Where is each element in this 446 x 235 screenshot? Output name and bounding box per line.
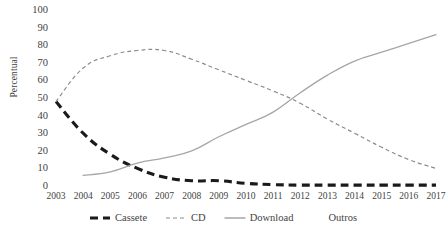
y-tick-label: 60 [22,75,48,85]
x-axis-tick-labels: 2003200420052006200720082009201020112012… [56,190,436,204]
legend-label: CD [191,212,206,224]
legend-item-cassete[interactable]: Cassete [89,212,147,224]
legend-label: Cassete [115,212,147,224]
legend-label: Download [250,212,294,224]
y-tick-label: 70 [22,58,48,68]
y-tick-label: 100 [22,5,48,15]
legend-label: Outros [328,212,357,224]
y-tick-label: 30 [22,128,48,138]
y-tick-label: 40 [22,111,48,121]
y-tick-label: 90 [22,23,48,33]
series-line-cassete [56,102,436,186]
legend-item-download[interactable]: Download [224,212,294,224]
y-axis-tick-labels: 0102030405060708090100 [22,10,48,186]
y-tick-label: 50 [22,93,48,103]
legend-swatch-cd-icon [165,213,187,223]
legend-item-cd[interactable]: CD [165,212,206,224]
line-chart-figure: Percentual 0102030405060708090100 200320… [0,0,446,235]
x-tick-label: 2017 [416,190,446,203]
series-canvas [56,10,436,186]
y-axis-title: Percentual [9,27,19,127]
series-line-download [83,35,436,176]
y-tick-label: 20 [22,146,48,156]
y-tick-label: 10 [22,163,48,173]
series-line-cd [56,49,436,168]
y-tick-label: 80 [22,40,48,50]
legend-item-outros[interactable]: Outros [328,212,357,224]
legend-swatch-download-icon [224,213,246,223]
legend-swatch-cassete-icon [89,213,111,223]
chart-legend: CasseteCDDownloadOutros [0,208,446,228]
plot-area [56,10,436,186]
